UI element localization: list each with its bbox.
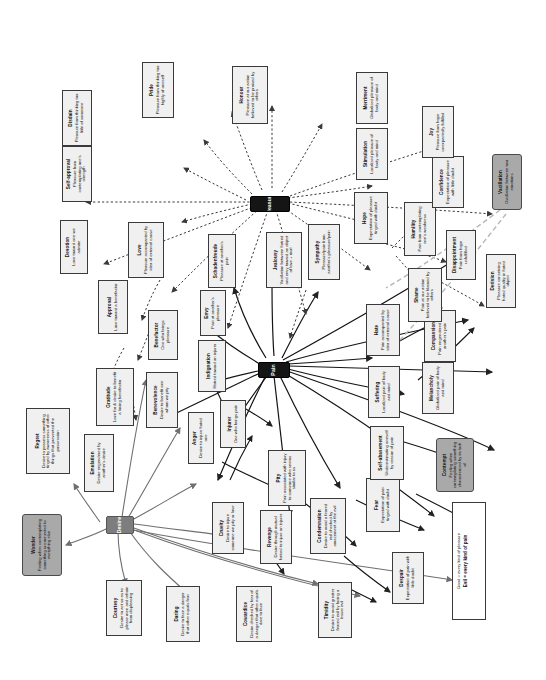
node-indignation[interactable]: Indignation Hatred toward an injurer <box>198 340 226 392</box>
node-melancholy[interactable]: Melancholy Globalized pain of body and m… <box>422 362 454 414</box>
node-benefactor[interactable]: Benefactor One who brings pleasure <box>148 310 178 360</box>
diagram-page: Desire Pain Pleasure Good = every kind o… <box>0 0 546 680</box>
node-devotion[interactable]: Devotion Love toward one we admire <box>60 220 88 274</box>
node-revenge-desc: Desire through mutual hatred to injure a… <box>274 513 283 561</box>
node-revenge[interactable]: Revenge Desire through mutual hatred to … <box>260 510 292 564</box>
node-cruelty[interactable]: Cruelty Desire to injure someone we pity… <box>212 502 244 554</box>
node-suffering[interactable]: Suffering Localized pain of body and min… <box>368 366 400 418</box>
node-sympathy[interactable]: Sympathy Pleasure/pain from another's pl… <box>308 224 340 280</box>
node-derision-desc: Pleasure conceiving hated quality in hat… <box>497 257 511 305</box>
node-honour-desc: Pleasure at our action believed to be pr… <box>246 69 260 121</box>
node-self-abasement-desc: Underestimating oneself by reason of pai… <box>385 429 394 477</box>
node-pride[interactable]: Pride Pleasure from thinking too highly … <box>142 62 174 118</box>
node-humility-desc: Pain from contemplating one's weakness <box>418 205 427 253</box>
legend-line-good: Good = every kind of pleasure <box>456 507 461 615</box>
node-cowardice-desc: Desire checked by fear of a danger that … <box>250 589 264 639</box>
node-daring[interactable]: Daring Desire to face a danger that othe… <box>166 586 200 642</box>
node-envy-desc: Pain at another's pleasure <box>211 293 220 333</box>
node-merriment[interactable]: Merriment Globalized pleasure of body an… <box>356 72 388 124</box>
core-node-pain[interactable]: Pain <box>258 362 290 378</box>
node-vacillation[interactable]: Vacillation Oscillation between two emot… <box>492 154 522 210</box>
node-love-desc: Pleasure accompanied by idea of external… <box>144 225 153 275</box>
node-emulation[interactable]: Emulation Desire engendered by another's… <box>84 434 114 492</box>
node-self-approval-desc: Pleasure from contemplating one's streng… <box>73 149 87 199</box>
core-node-desire-label: Desire <box>117 517 123 533</box>
node-despair-desc: Expectation of pain with little doubt <box>406 555 415 601</box>
node-stimulation[interactable]: Stimulation Localized pleasure of body a… <box>356 128 388 180</box>
node-vacillation-desc: Oscillation between two emotions <box>505 157 514 207</box>
node-shame-desc: Pain at our action believed to be blamed… <box>421 271 435 319</box>
core-node-pleasure-label: Pleasure <box>267 196 273 212</box>
node-honour[interactable]: Honour Pleasure at our action believed t… <box>232 66 268 124</box>
node-indignation-desc: Hatred toward an injurer <box>213 344 218 389</box>
node-schadenfreude[interactable]: Schadenfreude Pleasure at another's pain <box>208 234 236 288</box>
node-gratitude[interactable]: Gratitude Love for & desire to benefit a… <box>96 368 134 426</box>
node-love[interactable]: Love Pleasure accompanied by idea of ext… <box>128 222 164 278</box>
node-regret-main[interactable]: Regret Desire to possess something tinge… <box>26 408 70 474</box>
node-regret-desc: Desire to possess something tinged by aw… <box>42 411 60 471</box>
node-disdain-desc: Pleasure from thinking too little of som… <box>75 93 84 143</box>
node-self-abasement[interactable]: Self-abasement Underestimating oneself b… <box>370 426 404 480</box>
node-shame[interactable]: Shame Pain at our action believed to be … <box>408 268 442 322</box>
node-fear[interactable]: Fear Expectation of pain tinged with dou… <box>366 478 400 532</box>
node-jealousy[interactable]: Jealousy Vacillation between hatred and … <box>266 232 302 288</box>
node-contempt[interactable]: Contempt Feeling when contemplating some… <box>436 438 474 492</box>
node-disappointment-desc: Pain from hope unfulfilled <box>459 233 468 277</box>
node-humility[interactable]: Humility Pain from contemplating one's w… <box>404 202 436 256</box>
node-anger[interactable]: Anger Desire to injure hated one <box>188 412 214 464</box>
node-courtesy[interactable]: Courtesy Desire to act so as to please m… <box>106 580 142 636</box>
node-disappointment[interactable]: Disappointment Pain from hope unfulfille… <box>446 230 476 280</box>
node-pity-desc: Pain associated with injury to someone w… <box>283 453 297 503</box>
node-envy[interactable]: Envy Pain at another's pleasure <box>200 290 226 336</box>
node-approval-title: Approval <box>108 297 113 318</box>
legend-line-evil: Evil = every kind of pain <box>463 507 468 615</box>
node-injurer-title: Injurer <box>228 417 233 432</box>
node-confidence-desc: Expectation of pleasure with little doub… <box>446 159 455 205</box>
node-hope-desc: Expectation of pleasure tinged with doub… <box>369 195 378 241</box>
node-gratitude-desc: Love for & desire to benefit a loving be… <box>113 371 122 423</box>
diagram-canvas: Desire Pain Pleasure Good = every kind o… <box>0 0 546 680</box>
node-disdain[interactable]: Disdain Pleasure from thinking too littl… <box>62 90 92 146</box>
node-timidity[interactable]: Timidity Desire to avoid greater feared … <box>318 582 352 638</box>
node-emulation-desc: Desire engendered by another's desire <box>97 437 106 489</box>
node-self-approval[interactable]: Self-approval Pleasure from contemplatin… <box>62 146 92 202</box>
node-pity[interactable]: Pity Pain associated with injury to some… <box>268 450 306 506</box>
node-sympathy-desc: Pleasure/pain from another's pleasure/pa… <box>322 227 331 277</box>
node-fear-desc: Expectation of pain tinged with doubt <box>381 481 390 529</box>
core-node-desire[interactable]: Desire <box>106 516 134 534</box>
node-pride-desc: Pleasure from thinking too highly of one… <box>156 65 165 115</box>
node-cruelty-desc: Desire to injure someone we pity or love <box>226 505 235 551</box>
node-jealousy-desc: Vacillation between hatred and envy towa… <box>280 235 294 285</box>
node-condemnation-desc: Desire to avoid a feared evil checked by… <box>324 501 338 551</box>
node-despair[interactable]: Despair Expectation of pain with little … <box>392 552 424 604</box>
node-anger-desc: Desire to injure hated one <box>199 415 208 461</box>
node-cowardice[interactable]: Cowardice Desire checked by fear of a da… <box>236 586 272 642</box>
node-derision[interactable]: Derision Pleasure conceiving hated quali… <box>486 254 516 308</box>
node-wonder[interactable]: Wonder Feeling when contemplating someth… <box>22 514 62 576</box>
legend-box: Good = every kind of pleasure Evil = eve… <box>452 502 486 620</box>
node-timidity-desc: Desire to avoid greater feared evil by f… <box>331 585 345 635</box>
node-devotion-desc: Love toward one we admire <box>72 223 81 271</box>
node-contempt-desc: Feeling when contemplating something cha… <box>449 441 467 489</box>
core-node-pain-label: Pain <box>271 364 277 375</box>
node-joy[interactable]: Joy Pleasure from hope unexpectedly fulf… <box>422 106 454 158</box>
core-node-pleasure[interactable]: Pleasure <box>250 196 290 212</box>
node-merriment-desc: Globalized pleasure of body and mind <box>370 75 379 121</box>
node-benefactor-desc: One who brings pleasure <box>161 313 170 357</box>
node-approval[interactable]: Approval Love toward a benefactor <box>98 280 128 334</box>
node-stimulation-desc: Localized pleasure of body and mind <box>370 131 379 177</box>
node-wonder-desc: Feeling when contemplating something unc… <box>38 517 52 573</box>
node-benevolence-desc: Desire to benefit one whom we pity <box>160 375 169 425</box>
node-hope[interactable]: Hope Expectation of pleasure tinged with… <box>354 192 388 244</box>
node-condemnation[interactable]: Condemnation Desire to avoid a feared ev… <box>310 498 346 554</box>
node-injurer-desc: One who brings pain <box>234 405 239 443</box>
node-courtesy-desc: Desire to act so as to please men and re… <box>120 583 134 633</box>
node-hate[interactable]: Hate Pain accompanied by idea of externa… <box>366 304 400 356</box>
node-injurer[interactable]: Injurer One who brings pain <box>220 400 246 448</box>
node-daring-desc: Desire to face a danger that other equal… <box>181 589 190 639</box>
node-approval-desc: Love toward a benefactor <box>114 283 119 330</box>
node-indignation-title: Indignation <box>207 353 212 379</box>
node-joy-desc: Pleasure from hope unexpectedly fulfille… <box>436 109 445 155</box>
node-confidence[interactable]: Confidence Expectation of pleasure with … <box>432 156 464 208</box>
node-benevolence[interactable]: Benevolence Desire to benefit one whom w… <box>146 372 178 428</box>
